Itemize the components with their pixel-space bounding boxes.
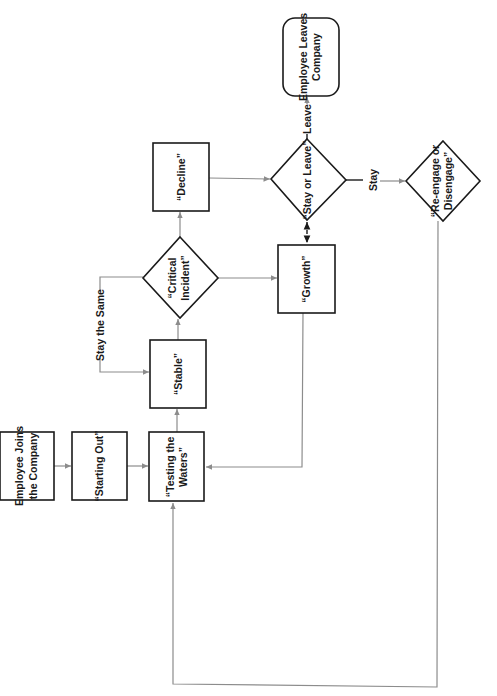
node-employee-leaves-line2: Company <box>310 33 322 81</box>
node-reengage-or-disengage: “Re-engage or Disengage” <box>406 141 480 221</box>
edge-label-stay-the-same: Stay the Same <box>94 289 106 361</box>
node-starting-out: “Starting Out” <box>72 430 127 501</box>
edge-label-leave: Leave <box>301 104 313 134</box>
node-reengage-line2: Disengage” <box>442 152 454 210</box>
edges <box>54 97 438 687</box>
node-testing-the-waters-line1: “Testing the <box>164 437 176 498</box>
employee-lifecycle-flowchart: Stay the Same Leave Stay Employee Joins … <box>0 0 497 696</box>
edge-stay-the-same-loop-lower <box>100 358 149 372</box>
node-decline-label: “Decline” <box>175 153 187 201</box>
node-stable-label: “Stable” <box>172 353 184 395</box>
node-stay-or-leave: “Stay or Leave” <box>271 139 346 220</box>
edge-label-stay: Stay <box>367 169 379 191</box>
edge-labels: Stay the Same Leave Stay <box>94 104 379 361</box>
node-critical-incident: “Critical Incident” <box>143 237 218 318</box>
node-starting-out-label: “Starting Out” <box>93 430 105 501</box>
node-stay-or-leave-label: “Stay or Leave” <box>301 141 313 220</box>
node-employee-joins-line1: Employee Joins <box>13 426 25 506</box>
node-stable: “Stable” <box>150 340 206 408</box>
node-employee-joins: Employee Joins the Company <box>0 426 54 506</box>
edge-decline-to-stay-or-leave <box>209 178 270 179</box>
node-employee-joins-line2: the Company <box>27 433 39 500</box>
node-decline: “Decline” <box>153 143 209 211</box>
node-growth: “Growth” <box>278 245 335 313</box>
edge-stay-the-same-loop <box>100 277 143 292</box>
node-critical-incident-line2: Incident” <box>179 255 191 301</box>
node-reengage-line1: “Re-engage or <box>429 145 441 217</box>
node-growth-label: “Growth” <box>300 255 312 302</box>
node-employee-leaves-line1: Employee Leaves <box>297 13 309 101</box>
node-testing-the-waters-line2: Waters” <box>177 447 189 487</box>
node-critical-incident-line1: “Critical <box>166 258 178 299</box>
node-employee-leaves: Employee Leaves Company <box>283 13 339 101</box>
node-testing-the-waters: “Testing the Waters” <box>149 432 204 501</box>
edge-growth-to-testing-waters <box>206 313 303 467</box>
